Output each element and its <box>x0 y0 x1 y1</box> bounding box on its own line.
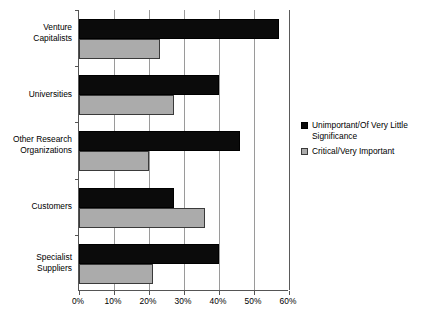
x-axis-tick-mark <box>254 291 255 295</box>
x-axis-tick-mark <box>149 291 150 295</box>
gridline <box>289 10 290 290</box>
y-axis-label-universities: Universities <box>0 89 72 100</box>
x-axis-tick-mark <box>114 291 115 295</box>
chart-legend: Unimportant/Of Very Little Significance … <box>301 120 437 162</box>
y-axis-label-line: Organizations <box>0 145 72 156</box>
x-axis-tick-mark <box>79 291 80 295</box>
legend-label: Unimportant/Of Very Little Significance <box>312 120 408 141</box>
y-axis-label-line: Venture <box>0 22 72 33</box>
y-axis-tick-mark <box>75 66 79 67</box>
y-axis-label-line: Capitalists <box>0 33 72 44</box>
y-axis-label-customers: Customers <box>0 201 72 212</box>
bar-critical <box>79 95 174 115</box>
y-axis-label-venture-capitalists: Venture Capitalists <box>0 22 72 43</box>
x-axis-tick-labels: 0%10%20%30%40%50%60% <box>78 296 288 310</box>
y-axis-label-line: Other Research <box>0 134 72 145</box>
legend-label-line: Critical/Very Important <box>312 146 394 156</box>
legend-label: Critical/Very Important <box>312 146 394 157</box>
legend-label-line: Significance <box>312 131 357 141</box>
bar-unimportant <box>79 188 174 208</box>
x-axis-tick-label: 20% <box>140 296 157 306</box>
x-axis-tick-mark <box>289 291 290 295</box>
x-axis-tick-label: 50% <box>245 296 262 306</box>
bar-chart: Venture Capitalists Universities Other R… <box>0 0 439 327</box>
gridline <box>254 10 255 290</box>
legend-swatch-icon <box>301 148 308 155</box>
y-axis-tick-mark <box>75 122 79 123</box>
legend-swatch-icon <box>301 122 308 129</box>
bar-critical <box>79 151 149 171</box>
legend-item-critical: Critical/Very Important <box>301 146 437 157</box>
bar-unimportant <box>79 19 279 39</box>
x-axis-tick-label: 40% <box>210 296 227 306</box>
x-axis-tick-label: 30% <box>175 296 192 306</box>
legend-item-unimportant: Unimportant/Of Very Little Significance <box>301 120 437 141</box>
x-axis-tick-label: 10% <box>105 296 122 306</box>
y-axis-label-line: Universities <box>0 89 72 100</box>
y-axis-label-other-research-organizations: Other Research Organizations <box>0 134 72 155</box>
x-axis-tick-mark <box>184 291 185 295</box>
y-axis-tick-mark <box>75 235 79 236</box>
x-axis-tick-label: 0% <box>72 296 84 306</box>
bar-unimportant <box>79 75 219 95</box>
y-axis-label-line: Customers <box>0 201 72 212</box>
bar-unimportant <box>79 244 219 264</box>
y-axis-tick-mark <box>75 179 79 180</box>
y-axis-label-specialist-suppliers: Specialist Suppliers <box>0 252 72 273</box>
x-axis-tick-mark <box>219 291 220 295</box>
bar-critical <box>79 39 160 59</box>
x-axis-tick-label: 60% <box>280 296 297 306</box>
bar-critical <box>79 264 153 284</box>
y-axis-tick-mark <box>75 10 79 11</box>
y-axis-label-line: Specialist <box>0 252 72 263</box>
y-axis-category-labels: Venture Capitalists Universities Other R… <box>0 10 76 291</box>
plot-area <box>78 10 288 291</box>
bar-unimportant <box>79 131 240 151</box>
legend-label-line: Unimportant/Of Very Little <box>312 120 408 130</box>
bar-critical <box>79 208 205 228</box>
y-axis-label-line: Suppliers <box>0 263 72 274</box>
